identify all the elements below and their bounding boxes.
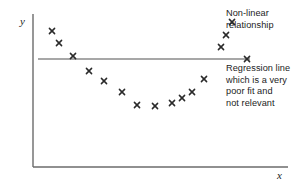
data-point-marker — [134, 102, 139, 107]
data-point-marker — [56, 40, 61, 45]
data-point-marker — [218, 44, 223, 49]
data-point-marker — [101, 78, 106, 83]
data-point-marker — [70, 53, 75, 58]
data-point-marker — [49, 28, 54, 33]
y-axis-label: y — [20, 16, 25, 27]
data-point-marker — [189, 89, 194, 94]
data-point-marker — [152, 103, 157, 108]
annotation-regression-line: Regression line which is a very poor fit… — [226, 63, 290, 109]
data-point-marker — [201, 76, 206, 81]
data-point-marker — [119, 89, 124, 94]
scatter-plot-figure: y x Non-linear relationship Regression l… — [0, 0, 304, 189]
annotation-non-linear-relationship: Non-linear relationship — [226, 8, 274, 31]
data-point-marker — [223, 32, 228, 37]
data-point-markers — [49, 19, 249, 108]
x-axis-label: x — [277, 170, 282, 181]
data-point-marker — [169, 100, 174, 105]
data-point-marker — [86, 68, 91, 73]
data-point-marker — [179, 95, 184, 100]
